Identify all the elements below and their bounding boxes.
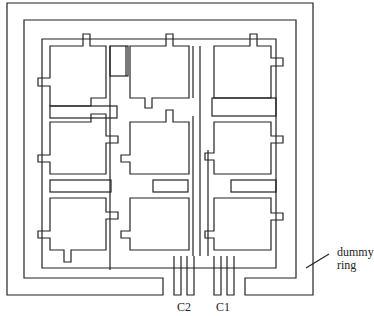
route-bar-r1-mid xyxy=(110,46,128,76)
cell-r2c1 xyxy=(38,114,118,174)
cell-r2c2 xyxy=(121,110,189,174)
cell-r2c3 xyxy=(205,122,283,174)
route-vertical-c1 xyxy=(200,46,208,256)
cell-r3c2 xyxy=(121,198,189,250)
cell-r1c2 xyxy=(130,34,189,108)
route-vertical-c2 xyxy=(110,46,193,270)
route-bar-r1-left xyxy=(50,106,117,118)
dummy-ring-outer xyxy=(7,3,313,295)
grid-boundary xyxy=(42,39,276,268)
cell-r3c1 xyxy=(38,198,118,262)
route-bar-r1-right xyxy=(212,98,276,116)
lead-c2 xyxy=(174,256,194,295)
lead-c1 xyxy=(214,256,234,295)
cell-r1c1 xyxy=(38,34,106,106)
route-bar-r2-far xyxy=(231,180,276,192)
route-bar-r2-left xyxy=(50,180,111,192)
cell-r3c3 xyxy=(205,198,283,250)
label-dummy-ring: dummy ring xyxy=(337,246,374,272)
label-c2: C2 xyxy=(177,301,191,314)
route-bar-r2-right xyxy=(153,180,188,192)
label-dummy-ring-line2: ring xyxy=(337,259,374,272)
label-c1: C1 xyxy=(216,301,230,314)
dummy-ring-leader xyxy=(306,254,329,268)
cell-r1c3 xyxy=(214,34,283,98)
